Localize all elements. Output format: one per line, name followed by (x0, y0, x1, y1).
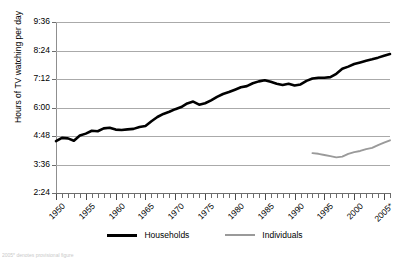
x-axis-tick-minor (92, 194, 93, 198)
x-axis-tick-minor (104, 194, 105, 198)
x-axis-tick-major (145, 194, 146, 200)
y-axis-tick-label: 6:00 (16, 103, 50, 112)
x-axis-tick-minor (62, 194, 63, 198)
y-axis-tick-label: 2:24 (16, 188, 50, 197)
x-axis-tick-minor (68, 194, 69, 198)
x-axis-tick-minor (110, 194, 111, 198)
series-layer (56, 22, 390, 193)
x-axis-tick-minor (199, 194, 200, 198)
x-axis-tick-label: 1970 (161, 201, 186, 226)
x-axis-tick-minor (211, 194, 212, 198)
series-line-households (56, 54, 390, 141)
x-axis-tick-major (205, 194, 206, 200)
x-axis-tick-minor (247, 194, 248, 198)
x-axis-tick-minor (378, 194, 379, 198)
x-axis-tick-minor (360, 194, 361, 198)
x-axis-tick-minor (277, 194, 278, 198)
x-axis-tick-major (384, 194, 385, 200)
x-axis-tick-minor (169, 194, 170, 198)
x-axis-tick-label: 1965 (131, 201, 156, 226)
x-axis-tick-minor (336, 194, 337, 198)
y-axis-tick-label: 3:36 (16, 160, 50, 169)
x-axis-tick-minor (98, 194, 99, 198)
x-axis-tick-minor (301, 194, 302, 198)
x-axis-tick-minor (372, 194, 373, 198)
x-axis-tick-minor (140, 194, 141, 198)
x-axis-tick-minor (253, 194, 254, 198)
x-axis-tick-minor (74, 194, 75, 198)
x-axis-tick-minor (283, 194, 284, 198)
footnote-text: 2005* denotes provisional figure (2, 252, 182, 258)
x-axis-tick-minor (271, 194, 272, 198)
x-axis-tick-minor (80, 194, 81, 198)
legend-label-individuals: Individuals (262, 230, 302, 240)
x-axis-tick-minor (157, 194, 158, 198)
x-axis-tick-major (116, 194, 117, 200)
x-axis-tick-minor (289, 194, 290, 198)
x-axis-tick-minor (193, 194, 194, 198)
x-axis-tick-minor (122, 194, 123, 198)
x-axis-tick-minor (151, 194, 152, 198)
x-axis-tick-label: 1955 (71, 201, 96, 226)
x-axis-tick-minor (307, 194, 308, 198)
x-axis-tick-label: 2000 (340, 201, 365, 226)
x-axis-tick-minor (187, 194, 188, 198)
x-axis-tick-major (175, 194, 176, 200)
y-axis-tick-label: 8:24 (16, 46, 50, 55)
legend-item-households: Households (107, 230, 189, 240)
x-axis-tick-minor (318, 194, 319, 198)
x-axis-tick-minor (241, 194, 242, 198)
x-axis-tick-major (235, 194, 236, 200)
x-axis-tick-major (265, 194, 266, 200)
x-axis-tick-label: 1990 (280, 201, 305, 226)
y-axis-tick-label: 9:36 (16, 17, 50, 26)
x-axis-tick-major (56, 194, 57, 200)
x-axis-tick-minor (217, 194, 218, 198)
x-axis-tick-major (324, 194, 325, 200)
x-axis-tick-minor (128, 194, 129, 198)
x-axis-tick-minor (163, 194, 164, 198)
y-axis-tick-label: 7:12 (16, 74, 50, 83)
x-axis-tick-minor (330, 194, 331, 198)
x-axis-tick-major (354, 194, 355, 200)
x-axis-tick-label: 1960 (101, 201, 126, 226)
x-axis-tick-minor (259, 194, 260, 198)
x-axis-tick-minor (390, 194, 391, 198)
x-axis-tick-label: 1975 (191, 201, 216, 226)
y-axis-tick-label: 4:48 (16, 131, 50, 140)
x-axis-tick-minor (312, 194, 313, 198)
x-axis-tick-label: 1950 (42, 201, 67, 226)
x-axis-tick-minor (229, 194, 230, 198)
x-axis-tick-label: 2005* (370, 201, 395, 226)
x-axis-tick-minor (366, 194, 367, 198)
x-axis-tick-minor (348, 194, 349, 198)
chart-legend: Households Individuals (0, 230, 410, 240)
x-axis-tick-minor (134, 194, 135, 198)
x-axis-tick-major (86, 194, 87, 200)
legend-label-households: Households (144, 230, 189, 240)
x-axis-tick-minor (342, 194, 343, 198)
x-axis-tick-minor (181, 194, 182, 198)
x-axis-tick-label: 1980 (221, 201, 246, 226)
tv-watching-line-chart: Hours of TV watching per day 2:243:364:4… (0, 0, 410, 260)
legend-swatch-households-icon (107, 234, 137, 237)
x-axis-tick-label: 1995 (310, 201, 335, 226)
legend-swatch-individuals-icon (225, 234, 255, 236)
x-axis-tick-minor (223, 194, 224, 198)
legend-item-individuals: Individuals (225, 230, 302, 240)
x-axis-tick-major (295, 194, 296, 200)
x-axis-tick-label: 1985 (250, 201, 275, 226)
plot-area (56, 22, 390, 193)
series-line-individuals (312, 140, 390, 157)
